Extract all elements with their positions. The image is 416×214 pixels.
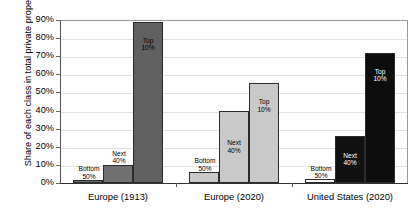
x-axis-category-label: United States (2020) (292, 191, 408, 202)
y-tick-mark (56, 183, 60, 184)
bar: Top 10% (365, 53, 395, 183)
bar: Top 10% (133, 22, 163, 183)
y-tick-mark (56, 38, 60, 39)
x-axis-category-label: Europe (1913) (60, 191, 176, 202)
bar: Bottom 50% (189, 172, 219, 183)
bar-value-label: Next 40% (227, 139, 241, 154)
x-axis-baseline (60, 183, 408, 184)
gridline (61, 57, 407, 58)
y-tick-mark (56, 56, 60, 57)
y-tick-label: 40% (18, 106, 54, 115)
bar-value-label: Top 10% (373, 68, 386, 83)
bar: Bottom 50% (73, 180, 103, 183)
y-tick-label: 50% (18, 87, 54, 96)
bar: Next 40% (103, 165, 133, 183)
bar: Bottom 50% (305, 179, 335, 183)
y-tick-mark (56, 165, 60, 166)
y-tick-mark (56, 111, 60, 112)
bar-value-label: Top 10% (141, 37, 154, 52)
y-tick-mark (56, 129, 60, 130)
bar-value-label: Next 40% (343, 152, 357, 167)
x-tick-mark (292, 183, 293, 187)
bar: Next 40% (219, 111, 249, 183)
y-tick-label: 60% (18, 69, 54, 78)
bar-chart: Share of each class in total private pro… (0, 0, 416, 214)
y-tick-label: 0% (18, 178, 54, 187)
x-tick-mark (176, 183, 177, 187)
y-tick-label: 20% (18, 142, 54, 151)
y-tick-mark (56, 74, 60, 75)
y-tick-mark (56, 92, 60, 93)
y-tick-mark (56, 147, 60, 148)
gridline (61, 39, 407, 40)
gridline (61, 75, 407, 76)
y-tick-label: 10% (18, 160, 54, 169)
y-tick-label: 70% (18, 51, 54, 60)
y-tick-label: 80% (18, 33, 54, 42)
y-tick-label: 90% (18, 15, 54, 24)
bar-value-label: Top 10% (257, 98, 270, 113)
gridline (61, 93, 407, 94)
bar: Next 40% (335, 136, 365, 183)
bar: Top 10% (249, 83, 279, 183)
y-tick-mark (56, 20, 60, 21)
x-axis-category-label: Europe (2020) (176, 191, 292, 202)
y-tick-label: 30% (18, 124, 54, 133)
